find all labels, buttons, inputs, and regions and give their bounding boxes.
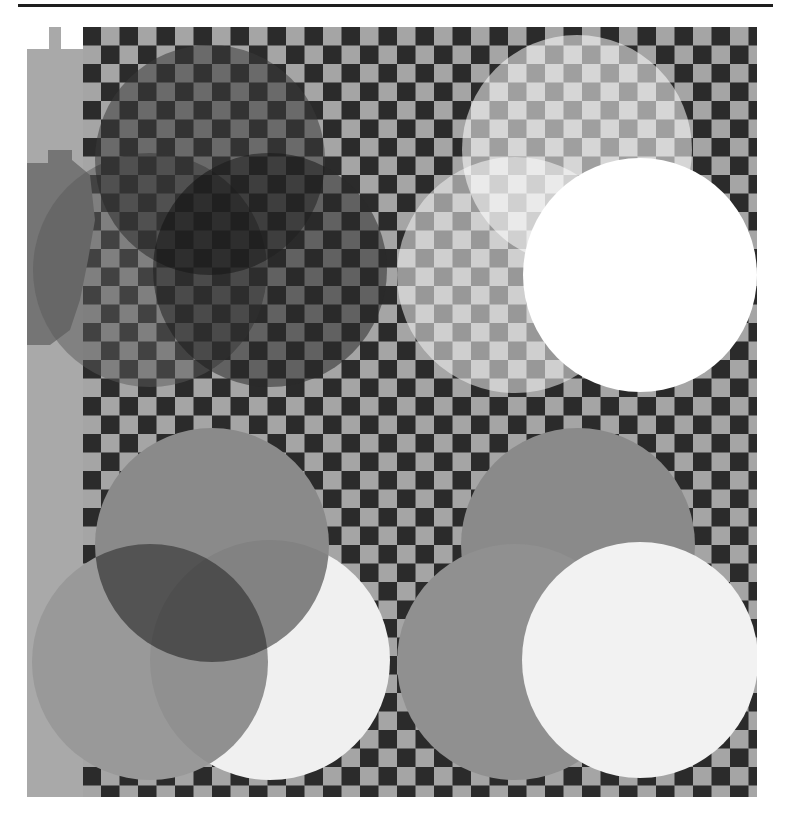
circle-3: [150, 540, 390, 780]
circle-3: [523, 158, 757, 392]
blend-scene: [0, 0, 791, 816]
left-strip-white-cell: [61, 27, 83, 49]
circle-3: [153, 153, 387, 387]
blend-test-canvas: [0, 0, 791, 816]
circle-3: [522, 542, 758, 778]
left-strip-white-cell: [27, 27, 49, 49]
